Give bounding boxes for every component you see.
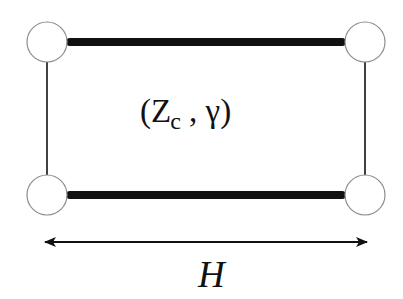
node-bottom-right xyxy=(345,175,385,215)
separator: , xyxy=(181,93,206,129)
node-top-right xyxy=(345,22,385,62)
propagation-symbol: γ xyxy=(206,93,221,129)
close-paren: ) xyxy=(220,93,231,129)
impedance-symbol: Z xyxy=(151,93,171,129)
node-top-left xyxy=(27,22,67,62)
impedance-subscript: c xyxy=(170,108,181,134)
node-bottom-left xyxy=(27,175,67,215)
open-paren: ( xyxy=(140,93,151,129)
line-parameters-label: (Zc , γ) xyxy=(140,95,231,128)
length-dimension-label: H xyxy=(198,256,225,293)
